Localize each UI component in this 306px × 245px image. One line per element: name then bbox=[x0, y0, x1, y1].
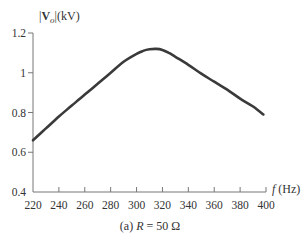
y-tick-label: 0.8 bbox=[12, 107, 27, 119]
x-axis: 220240260280300320340360380400 bbox=[24, 187, 275, 211]
y-tick-label: 0.4 bbox=[12, 186, 27, 198]
x-tick-label: 300 bbox=[128, 199, 146, 211]
y-tick-label: 1.2 bbox=[12, 27, 27, 39]
data-series bbox=[33, 49, 263, 140]
x-tick-label: 220 bbox=[24, 199, 42, 211]
x-tick-label: 360 bbox=[206, 199, 224, 211]
y-axis: 0.40.60.811.2 bbox=[12, 27, 33, 198]
x-tick-label: 280 bbox=[102, 199, 120, 211]
x-tick-label: 260 bbox=[76, 199, 94, 211]
x-tick-label: 320 bbox=[154, 199, 172, 211]
x-axis-label: f (Hz) bbox=[272, 182, 300, 196]
series-line bbox=[33, 49, 263, 140]
x-tick-label: 400 bbox=[257, 199, 275, 211]
x-tick-label: 340 bbox=[180, 199, 198, 211]
x-tick-label: 380 bbox=[231, 199, 249, 211]
y-tick-label: 0.6 bbox=[12, 146, 27, 158]
x-tick-label: 240 bbox=[50, 199, 68, 211]
chart-caption: (a) R = 50 Ω bbox=[120, 219, 180, 233]
y-axis-label: |Vo|(kV) bbox=[39, 9, 80, 25]
chart: 0.40.60.811.2 22024026028030032034036038… bbox=[0, 0, 306, 245]
y-tick-label: 1 bbox=[20, 67, 26, 79]
